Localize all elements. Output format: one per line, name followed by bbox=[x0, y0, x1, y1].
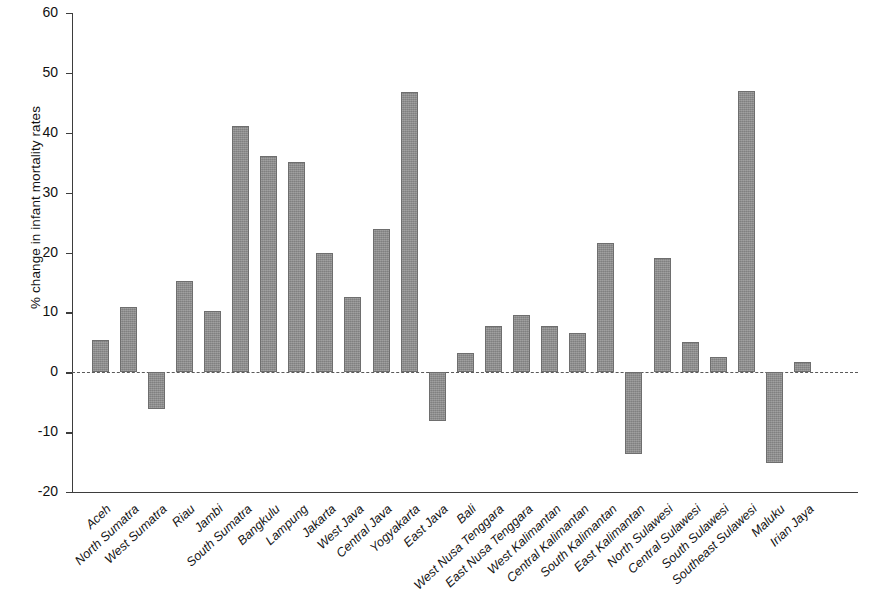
y-axis-tick bbox=[66, 253, 72, 254]
y-axis-tick bbox=[66, 133, 72, 134]
bar-chart: % change in infant mortality rates 60504… bbox=[0, 0, 871, 600]
y-axis-tick-label: 30 bbox=[18, 184, 58, 200]
y-axis-tick-label: 60 bbox=[18, 4, 58, 20]
y-axis-tick bbox=[66, 432, 72, 433]
bar bbox=[176, 281, 193, 372]
bar bbox=[541, 326, 558, 373]
bar bbox=[513, 315, 530, 372]
bar bbox=[794, 362, 811, 372]
bar bbox=[232, 126, 249, 373]
bar bbox=[148, 372, 165, 409]
y-axis-tick-label: 20 bbox=[18, 244, 58, 260]
bar bbox=[766, 372, 783, 462]
x-axis-line bbox=[72, 492, 858, 493]
y-axis-tick-label: 0 bbox=[18, 363, 58, 379]
y-axis-tick-label: -10 bbox=[18, 423, 58, 439]
y-axis-tick-label: 40 bbox=[18, 124, 58, 140]
bar bbox=[654, 258, 671, 372]
y-axis-line bbox=[72, 13, 73, 492]
bar bbox=[373, 229, 390, 372]
y-axis-tick-label: 10 bbox=[18, 303, 58, 319]
y-axis-tick bbox=[66, 312, 72, 313]
bar bbox=[288, 162, 305, 372]
y-axis-tick-label: -20 bbox=[18, 483, 58, 499]
bar bbox=[710, 357, 727, 373]
bar bbox=[401, 92, 418, 372]
bar bbox=[597, 243, 614, 372]
bar bbox=[625, 372, 642, 453]
bar bbox=[429, 372, 446, 420]
bar bbox=[92, 340, 109, 372]
bar bbox=[457, 353, 474, 372]
bar bbox=[569, 333, 586, 372]
bar bbox=[344, 297, 361, 372]
bar bbox=[204, 311, 221, 373]
bar bbox=[316, 253, 333, 372]
y-axis-tick-label: 50 bbox=[18, 64, 58, 80]
y-axis-tick bbox=[66, 73, 72, 74]
bar bbox=[682, 342, 699, 373]
bar bbox=[120, 307, 137, 372]
bar bbox=[738, 91, 755, 372]
y-axis-tick bbox=[66, 13, 72, 14]
bar bbox=[485, 326, 502, 373]
y-axis-tick bbox=[66, 193, 72, 194]
y-axis-tick bbox=[66, 492, 72, 493]
bar bbox=[260, 156, 277, 372]
zero-reference-line bbox=[72, 372, 858, 373]
